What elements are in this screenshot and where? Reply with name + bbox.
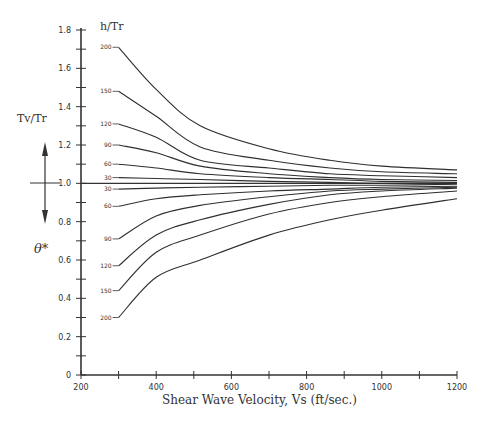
curve-lower-200 <box>119 199 457 318</box>
y-tick-label: 1.4 <box>58 103 71 112</box>
curve-label: 90 <box>104 235 112 242</box>
direction-arrow-icon <box>30 142 60 224</box>
curve-label: 150 <box>100 287 112 294</box>
x-tick-label: 1200 <box>447 383 467 392</box>
x-tick-label: 800 <box>299 383 314 392</box>
y-tick-label: 0.2 <box>58 333 71 342</box>
curve-upper-200 <box>119 47 457 170</box>
curve-lower-60 <box>119 186 457 206</box>
curve-upper-150 <box>119 91 457 174</box>
curve-label: 200 <box>100 314 112 321</box>
x-tick-label: 200 <box>73 383 88 392</box>
y-tick-label: 1.6 <box>58 64 71 73</box>
y-tick-label: 0.6 <box>58 256 71 265</box>
curve-label: 60 <box>104 202 112 209</box>
curve-label: 30 <box>104 185 112 192</box>
curve-label: 120 <box>100 262 112 269</box>
y-tick-label: 1.8 <box>58 26 71 35</box>
y-axis-label-bottom: θ* <box>34 241 49 256</box>
legend-title: h/Tr <box>100 20 124 33</box>
x-axis-label: Shear Wave Velocity, Vs (ft/sec.) <box>162 393 357 407</box>
curve-label: 30 <box>104 174 112 181</box>
curve-label: 200 <box>100 43 112 50</box>
curve-label: 60 <box>104 160 112 167</box>
y-axis-label-top: Tv/Tr <box>17 112 48 125</box>
x-tick-label: 400 <box>149 383 164 392</box>
y-tick-label: 1.0 <box>58 179 71 188</box>
curve-lower-120 <box>119 188 457 266</box>
y-tick-label: 1.2 <box>58 141 71 150</box>
curve-label: 90 <box>104 141 112 148</box>
x-tick-label: 600 <box>224 383 239 392</box>
y-tick-label: 0.4 <box>58 294 71 303</box>
chart: 00.20.40.60.81.01.21.41.61.8200400600800… <box>0 0 488 425</box>
axes: 00.20.40.60.81.01.21.41.61.8200400600800… <box>58 26 467 392</box>
curve-label: 150 <box>100 87 112 94</box>
curve-label: 120 <box>100 120 112 127</box>
x-tick-label: 1000 <box>372 383 392 392</box>
y-tick-label: 0 <box>66 371 71 380</box>
y-tick-label: 0.8 <box>58 218 71 227</box>
curves <box>119 47 457 317</box>
curve-labels: 200150120906030306090120150200 <box>100 43 118 320</box>
